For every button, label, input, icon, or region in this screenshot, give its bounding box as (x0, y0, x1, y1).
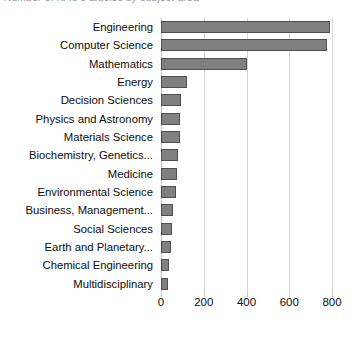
bar (161, 39, 327, 51)
axis-tick (161, 293, 162, 297)
bar-row (161, 220, 332, 238)
value-axis-tick-label: 400 (237, 296, 256, 308)
category-label: Social Sciences (0, 220, 153, 238)
category-label: Engineering (0, 18, 153, 36)
category-label: Multidisciplinary (0, 275, 153, 293)
category-label: Business, Management... (0, 201, 153, 219)
bar-row (161, 183, 332, 201)
axis-tick (247, 293, 248, 297)
bar (161, 94, 181, 106)
category-label: Medicine (0, 165, 153, 183)
bar (161, 278, 168, 290)
category-label: Materials Science (0, 128, 153, 146)
bar (161, 113, 180, 125)
category-axis-labels: EngineeringComputer ScienceMathematicsEn… (0, 18, 157, 293)
category-label: Energy (0, 73, 153, 91)
category-label: Biochemistry, Genetics... (0, 146, 153, 164)
bar-row (161, 256, 332, 274)
bar (161, 76, 187, 88)
bar-row (161, 55, 332, 73)
bar (161, 186, 176, 198)
bar-row (161, 275, 332, 293)
category-label: Earth and Planetary... (0, 238, 153, 256)
category-label: Decision Sciences (0, 91, 153, 109)
axis-tick (289, 293, 290, 297)
category-label: Chemical Engineering (0, 256, 153, 274)
bar (161, 204, 173, 216)
value-axis-labels: 0200400600800 (0, 296, 360, 316)
bar-row (161, 128, 332, 146)
bar-chart: Number of KAU's articles by subject area… (0, 0, 360, 341)
value-axis-tick-label: 200 (194, 296, 213, 308)
bar (161, 259, 169, 271)
bar-row (161, 146, 332, 164)
axis-tick (204, 293, 205, 297)
value-axis-tick-label: 0 (158, 296, 164, 308)
gridline (332, 18, 333, 293)
chart-title: Number of KAU's articles by subject area (4, 0, 199, 3)
category-label: Environmental Science (0, 183, 153, 201)
bar-row (161, 201, 332, 219)
bar-row (161, 36, 332, 54)
bar (161, 149, 178, 161)
category-label: Physics and Astronomy (0, 110, 153, 128)
bar (161, 21, 330, 33)
value-axis-tick-label: 800 (322, 296, 341, 308)
bar (161, 168, 177, 180)
category-label: Computer Science (0, 36, 153, 54)
plot-area (161, 18, 332, 293)
bar (161, 58, 247, 70)
bar-row (161, 238, 332, 256)
bar-row (161, 165, 332, 183)
bar-row (161, 91, 332, 109)
bar (161, 241, 171, 253)
value-axis-tick-label: 600 (280, 296, 299, 308)
axis-tick (332, 293, 333, 297)
bar (161, 223, 172, 235)
bar-row (161, 73, 332, 91)
bar-row (161, 18, 332, 36)
bar-row (161, 110, 332, 128)
category-label: Mathematics (0, 55, 153, 73)
bar (161, 131, 180, 143)
